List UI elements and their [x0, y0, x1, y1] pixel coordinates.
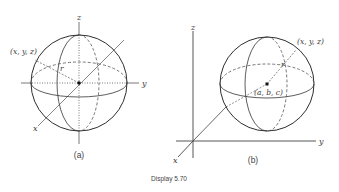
point-label: (x, y, z): [297, 37, 324, 46]
center-point: [266, 83, 269, 86]
center-point: [77, 81, 81, 85]
radius-label: r: [281, 60, 285, 69]
z-axis-label: z: [190, 23, 196, 32]
origin-to-center-line: [193, 107, 226, 141]
y-axis-label: y: [318, 137, 324, 146]
panel-b: z y x (x, y, z) (a, b, c) r (b): [173, 23, 324, 165]
z-axis-label: z: [76, 13, 82, 22]
radius-label: r: [60, 64, 64, 73]
point-label: (x, y, z): [10, 47, 37, 56]
meridian-back: [267, 37, 287, 131]
panel-a: z y x (x, y, z) r (a): [10, 13, 147, 160]
x-axis: [38, 40, 124, 126]
equator-back: [220, 64, 314, 84]
x-axis: [178, 141, 193, 157]
panel-b-caption: (b): [248, 155, 259, 165]
x-axis-label: x: [33, 124, 38, 133]
x-axis-label: x: [173, 156, 178, 165]
y-axis-label: y: [141, 79, 147, 88]
sphere-diagram: z y x (x, y, z) r (a) z y x (x, y, z) (a…: [0, 0, 339, 192]
meridian-front: [245, 37, 267, 131]
figure-caption: Display 5.70: [151, 175, 187, 183]
panel-a-caption: (a): [74, 150, 85, 160]
center-label: (a, b, c): [254, 88, 283, 97]
